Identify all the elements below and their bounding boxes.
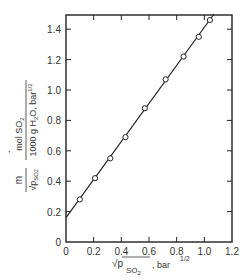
svg-text:SO2: SO2 — [126, 266, 142, 276]
data-point-marker — [142, 106, 147, 111]
svg-text:m: m — [13, 176, 24, 184]
svg-text:1/2: 1/2 — [180, 255, 190, 262]
data-point-marker — [163, 77, 168, 82]
fit-line — [66, 14, 214, 218]
y-tick-label: 0.4 — [47, 176, 61, 187]
data-point-marker — [181, 54, 186, 59]
data-series — [66, 14, 214, 218]
svg-text:√p: √p — [112, 258, 123, 269]
svg-text:mol SO2: mol SO2 — [14, 117, 25, 151]
y-tick-label: 0 — [55, 237, 61, 248]
y-tick-label: 0.6 — [47, 146, 61, 157]
x-tick-label: 1.2 — [225, 246, 239, 257]
svg-text:1000 g H2O, bar1/2: 1000 g H2O, bar1/2 — [27, 83, 39, 157]
svg-text:√pSO2: √pSO2 — [28, 169, 39, 191]
y-tick-label: 0.8 — [47, 115, 61, 126]
y-tick-label: 1.2 — [47, 55, 61, 66]
y-axis-ticks: 00.20.40.60.81.01.21.4 — [47, 24, 232, 248]
y-tick-label: 1.0 — [47, 85, 61, 96]
x-axis-label: √p SO2 , bar 1/2 — [112, 255, 190, 276]
svg-text:, bar: , bar — [152, 260, 170, 270]
y-tick-label: 0.2 — [47, 207, 61, 218]
data-point-marker — [92, 176, 97, 181]
chart: 00.20.40.60.81.01.2 00.20.40.60.81.01.21… — [0, 0, 250, 280]
data-point-marker — [108, 156, 113, 161]
y-tick-label: 1.4 — [47, 24, 61, 35]
x-tick-label: 0.2 — [87, 246, 101, 257]
plot-frame — [66, 15, 232, 242]
x-axis-ticks: 00.20.40.60.81.01.2 — [63, 15, 239, 257]
data-point-marker — [196, 34, 201, 39]
svg-text:,: , — [8, 144, 11, 154]
data-point-marker — [207, 17, 212, 22]
x-tick-label: 0.6 — [142, 246, 156, 257]
x-tick-label: 1.0 — [197, 246, 211, 257]
x-tick-label: 0 — [63, 246, 69, 257]
data-point-marker — [123, 135, 128, 140]
data-point-marker — [77, 197, 82, 202]
x-tick-label: 0.4 — [114, 246, 128, 257]
y-axis-label: mol SO2 1000 g H2O, bar1/2 m √pSO2 , — [8, 80, 39, 192]
